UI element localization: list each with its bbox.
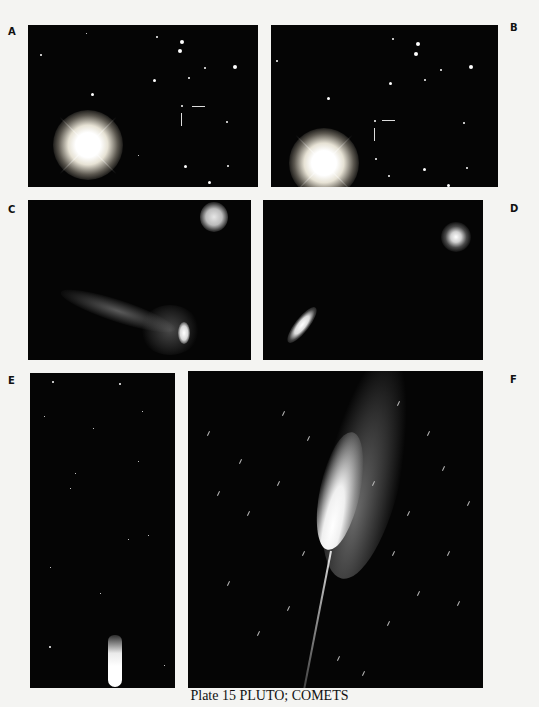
photo-panel-c — [28, 200, 251, 360]
comet-elongated — [283, 303, 321, 346]
comet-nucleus — [178, 322, 190, 344]
photo-panel-d — [263, 200, 483, 360]
pluto-dot — [181, 105, 183, 107]
arrow-up-icon — [181, 113, 182, 126]
comet-ion-tail — [303, 551, 332, 688]
photo-panel-e — [30, 373, 175, 688]
photo-panel-f — [188, 371, 483, 688]
comet-coma — [140, 305, 200, 355]
panel-label-d: D — [510, 203, 518, 214]
panel-label-f: F — [510, 374, 517, 385]
arrow-up-icon — [374, 128, 375, 141]
panel-label-b: B — [510, 22, 518, 33]
comet-head — [108, 635, 122, 687]
panel-label-a: A — [8, 26, 16, 37]
panel-label-c: C — [8, 204, 15, 215]
arrow-left-icon — [382, 120, 395, 121]
plate-caption: Plate 15 PLUTO; COMETS — [0, 688, 539, 704]
fuzzy-object — [441, 222, 471, 252]
fuzzy-object — [200, 202, 228, 232]
photo-panel-b — [271, 25, 498, 187]
photo-panel-a — [28, 25, 258, 187]
panel-label-e: E — [8, 375, 15, 386]
pluto-dot — [374, 120, 376, 122]
arrow-left-icon — [192, 106, 205, 107]
